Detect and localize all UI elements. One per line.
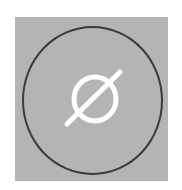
empty-set-icon [55, 60, 135, 140]
